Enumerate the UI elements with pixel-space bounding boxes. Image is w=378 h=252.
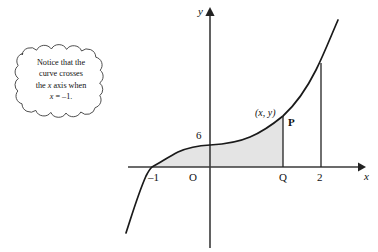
shaded-region (152, 116, 283, 167)
x-intercept-label: –1 (148, 172, 159, 183)
tick-two-label: 2 (317, 172, 323, 183)
coordinate-label: (x, y) (255, 108, 276, 118)
y-axis-label: y (198, 6, 203, 17)
origin-label: O (189, 172, 197, 183)
callout-line-3: the x axis when (18, 80, 104, 91)
callout-text-block: Notice that the curve crosses the x axis… (18, 57, 104, 103)
figure-page: Notice that the curve crosses the x axis… (0, 0, 378, 252)
y-axis-arrowhead (205, 7, 214, 16)
graph-figure (0, 0, 378, 252)
y-intercept-label: 6 (196, 130, 202, 141)
callout-line-1: Notice that the (18, 57, 104, 68)
callout-line-3-a: the (36, 81, 48, 90)
point-p-label: P (288, 117, 295, 128)
callout-line-3-c: axis when (51, 81, 86, 90)
callout-line-4: x = –1. (18, 91, 104, 102)
function-curve (126, 20, 338, 233)
x-axis-label: x (364, 171, 369, 182)
point-q-label: Q (279, 172, 287, 183)
callout-line-2: curve crosses (18, 68, 104, 79)
callout-line-4-val: = –1. (53, 92, 72, 101)
